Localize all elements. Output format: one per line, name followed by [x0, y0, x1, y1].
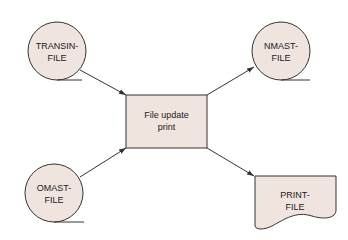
- flowchart-canvas: TRANSIN- FILE OMAST- FILE File update pr…: [0, 0, 348, 240]
- omast-label-2: FILE: [44, 195, 63, 205]
- process-label-2: print: [158, 122, 176, 132]
- process-node-file-update-print[interactable]: File update print: [126, 95, 207, 148]
- edge-omast-to-process: [80, 148, 126, 177]
- omast-label-1: OMAST-: [37, 183, 72, 193]
- print-label-2: FILE: [285, 202, 304, 212]
- process-label-1: File update: [144, 110, 189, 120]
- transin-label-1: TRANSIN-: [36, 41, 79, 51]
- tape-node-nmast[interactable]: NMAST- FILE: [252, 22, 310, 80]
- tape-node-omast[interactable]: OMAST- FILE: [25, 164, 84, 222]
- document-node-print[interactable]: PRINT- FILE: [255, 176, 336, 229]
- edge-process-to-nmast: [207, 67, 254, 95]
- edge-process-to-print: [207, 148, 254, 176]
- print-label-1: PRINT-: [280, 190, 310, 200]
- nmast-label-1: NMAST-: [264, 41, 298, 51]
- edge-transin-to-process: [80, 70, 126, 95]
- nmast-label-2: FILE: [271, 53, 290, 63]
- tape-node-transin[interactable]: TRANSIN- FILE: [28, 22, 86, 80]
- transin-label-2: FILE: [47, 53, 66, 63]
